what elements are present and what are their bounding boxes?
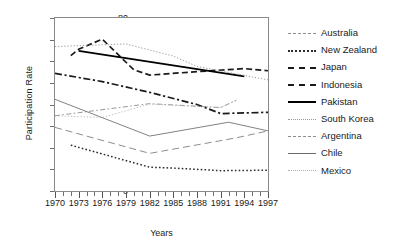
x-tick-mark-minor [229, 192, 230, 196]
legend-swatch-icon [288, 149, 316, 157]
legend-item-label: Indonesia [321, 80, 362, 89]
legend-swatch-icon [288, 80, 316, 88]
chart-figure: Participation Rate 80706050403020100 197… [0, 0, 400, 249]
legend-item-japan[interactable]: Japan [288, 58, 377, 75]
series-line-japan [55, 73, 268, 113]
legend-swatch-icon [288, 132, 316, 140]
x-tick-mark-minor [63, 192, 64, 196]
series-line-australia [55, 100, 236, 116]
x-tick-mark-minor [110, 192, 111, 196]
legend-item-indonesia[interactable]: Indonesia [288, 76, 377, 93]
legend-item-mexico[interactable]: Mexico [288, 162, 377, 179]
legend-swatch-icon [288, 46, 316, 54]
series-lines [55, 18, 268, 191]
series-line-pakistan [79, 51, 245, 77]
x-tick-mark-minor [134, 192, 135, 196]
x-tick-mark-minor [142, 192, 143, 196]
legend-item-label: Australia [321, 28, 358, 37]
legend-swatch-icon [288, 166, 316, 174]
series-line-new-zealand [71, 145, 268, 171]
legend-item-label: Mexico [321, 166, 351, 175]
legend-item-pakistan[interactable]: Pakistan [288, 93, 377, 110]
x-tick-mark-minor [118, 192, 119, 196]
x-tick-mark-minor [181, 192, 182, 196]
x-tick-mark-minor [205, 192, 206, 196]
x-axis-title: Years [54, 228, 269, 238]
x-tick-label: 1997 [248, 199, 288, 208]
x-tick-mark-minor [71, 192, 72, 196]
x-tick-mark-minor [165, 192, 166, 196]
series-line-chile [55, 99, 268, 136]
legend-item-argentina[interactable]: Argentina [288, 127, 377, 144]
legend-item-label: New Zealand [321, 45, 377, 54]
y-axis-title: Participation Rate [24, 33, 34, 173]
x-tick-mark-minor [260, 192, 261, 196]
x-tick-mark-minor [189, 192, 190, 196]
legend-swatch-icon [288, 29, 316, 37]
x-tick-mark-minor [252, 192, 253, 196]
legend-item-label: South Korea [321, 114, 374, 123]
plot-area [54, 17, 269, 192]
legend-item-label: Chile [321, 148, 343, 157]
x-tick-mark-minor [94, 192, 95, 196]
legend-item-label: Argentina [321, 131, 362, 140]
x-tick-mark-minor [158, 192, 159, 196]
series-line-indonesia [71, 39, 268, 75]
legend-swatch-icon [288, 115, 316, 123]
legend-item-australia[interactable]: Australia [288, 24, 377, 41]
legend-item-label: Pakistan [321, 97, 357, 106]
legend-item-chile[interactable]: Chile [288, 144, 377, 161]
legend-item-new-zealand[interactable]: New Zealand [288, 41, 377, 58]
x-tick-mark-minor [87, 192, 88, 196]
x-tick-mark-minor [236, 192, 237, 196]
legend-swatch-icon [288, 97, 316, 105]
legend-item-label: Japan [321, 62, 347, 71]
legend-item-south-korea[interactable]: South Korea [288, 110, 377, 127]
x-tick-mark-minor [213, 192, 214, 196]
legend-swatch-icon [288, 63, 316, 71]
chart-legend: AustraliaNew ZealandJapanIndonesiaPakist… [288, 24, 377, 179]
